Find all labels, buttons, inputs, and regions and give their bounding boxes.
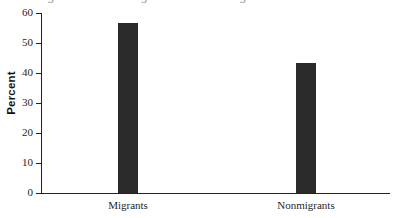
y-axis-tick-label: 0 [0, 187, 33, 198]
y-axis-tick-label: 20 [0, 127, 33, 138]
y-axis-tick-label: 10 [0, 157, 33, 168]
y-axis-tick-label: 50 [0, 37, 33, 48]
plot-area: 0102030405060 Percent MigrantsNonmigrant… [0, 0, 400, 218]
y-axis-tick-label: 60 [0, 7, 33, 18]
x-axis-line [41, 193, 390, 194]
bar-migrants[interactable] [118, 23, 138, 193]
y-axis-line [41, 13, 42, 194]
y-axis-title: Percent [5, 58, 17, 128]
y-axis-tick [36, 163, 41, 164]
bar-nonmigrants[interactable] [296, 63, 316, 193]
y-axis-tick [36, 73, 41, 74]
bar-chart-figure: Figure: Percent Migrants and Nonmigrants… [0, 0, 400, 218]
y-axis-tick [36, 193, 41, 194]
category-label-migrants: Migrants [68, 199, 188, 211]
category-label-nonmigrants: Nonmigrants [246, 199, 366, 211]
y-axis-tick [36, 133, 41, 134]
y-axis-tick [36, 43, 41, 44]
y-axis-tick [36, 13, 41, 14]
y-axis-tick [36, 103, 41, 104]
